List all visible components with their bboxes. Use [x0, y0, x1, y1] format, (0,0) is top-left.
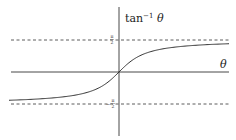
arctan-plot: tan−1 θ θ π 2 − π 2	[0, 0, 236, 140]
ytick-neg-pi-over-2: − π 2	[106, 98, 115, 109]
svg-text:π: π	[111, 34, 114, 39]
svg-text:2: 2	[112, 104, 115, 109]
svg-text:−: −	[106, 101, 110, 107]
svg-text:π: π	[112, 98, 115, 103]
x-axis-label: θ	[220, 58, 227, 71]
svg-text:2: 2	[111, 40, 114, 45]
y-axis-label: tan−1 θ	[125, 12, 164, 25]
ytick-pi-over-2: π 2	[110, 34, 114, 45]
